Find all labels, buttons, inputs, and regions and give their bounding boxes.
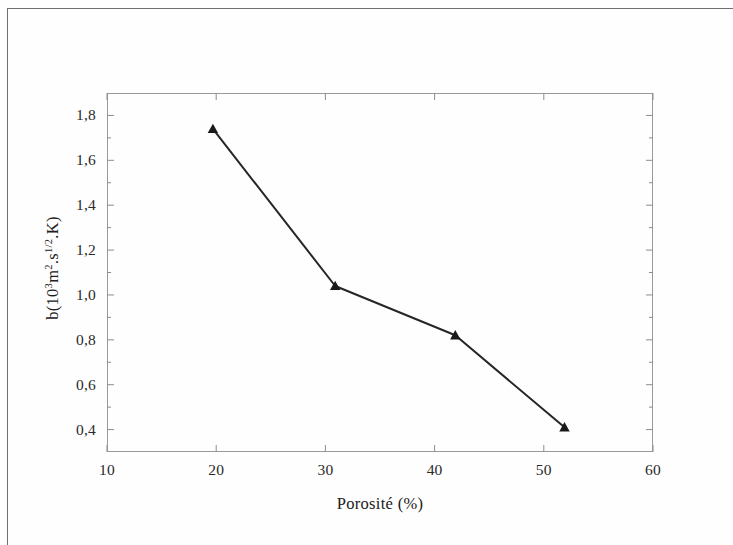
plot-frame — [107, 93, 653, 452]
y-axis-title-suffix: .K) — [43, 216, 62, 238]
y-axis-title-exponent-2: 2 — [43, 264, 54, 270]
x-axis-title: Porosité (%) — [107, 494, 653, 514]
x-tick-label: 50 — [524, 462, 564, 478]
y-axis-title-exponent-3: 3 — [43, 283, 54, 289]
x-tick-label: 40 — [415, 462, 455, 478]
y-tick-label: 0,6 — [56, 377, 96, 393]
scanned-page: 0,40,60,81,01,21,41,61,8 102030405060 Po… — [0, 0, 733, 545]
y-axis-title: b(103m2.s1/2.K) — [43, 158, 63, 378]
x-tick-label: 20 — [196, 462, 236, 478]
y-axis-title-exponent-half: 1/2 — [43, 239, 54, 253]
y-axis-title-prefix: b(10 — [43, 288, 62, 319]
y-axis-title-mid2: .s — [43, 253, 62, 264]
y-tick-label: 1,8 — [56, 107, 96, 123]
line-chart-figure: 0,40,60,81,01,21,41,61,8 102030405060 Po… — [0, 0, 733, 545]
x-tick-label: 30 — [305, 462, 345, 478]
y-axis-title-mid: m — [43, 270, 62, 283]
y-tick-label: 0,4 — [56, 422, 96, 438]
x-tick-label: 10 — [87, 462, 127, 478]
x-tick-label: 60 — [633, 462, 673, 478]
